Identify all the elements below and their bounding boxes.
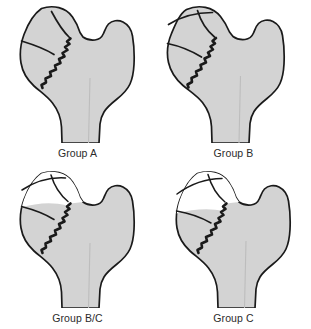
panel-group-bc: Group B/C xyxy=(0,165,155,329)
panel-label-group-b: Group B xyxy=(156,147,311,160)
femur-body-group-bc xyxy=(14,169,134,308)
panel-group-a: Group A xyxy=(0,0,155,164)
panel-label-group-c: Group C xyxy=(156,312,311,325)
panel-group-c: Group C xyxy=(156,165,311,329)
panel-label-group-bc: Group B/C xyxy=(0,312,155,325)
femur-body-group-a xyxy=(20,7,134,143)
femur-outline xyxy=(20,7,134,143)
femur-body-group-b xyxy=(168,7,285,143)
femur-body-group-c xyxy=(170,167,290,308)
femur-outline xyxy=(168,7,285,143)
femur-illustration-group-b xyxy=(156,0,311,143)
femur-classification-figure: Group A Group B xyxy=(0,0,311,329)
femur-illustration-group-bc xyxy=(0,165,155,308)
femur-illustration-group-c xyxy=(156,165,311,308)
femur-illustration-group-a xyxy=(0,0,155,143)
panel-label-group-a: Group A xyxy=(0,147,155,160)
panel-group-b: Group B xyxy=(156,0,311,164)
